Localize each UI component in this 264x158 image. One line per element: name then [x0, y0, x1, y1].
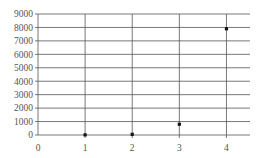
data-point-marker [225, 27, 228, 30]
y-tick-label: 7000 [14, 36, 33, 46]
y-tick-label: 3000 [14, 90, 33, 100]
y-tick-label: 2000 [14, 103, 33, 113]
scatter-chart: 0100020003000400050006000700080009000 01… [0, 0, 264, 158]
data-points [84, 27, 229, 136]
data-point-marker [84, 133, 87, 136]
x-tick-label: 3 [177, 143, 182, 153]
y-tick-label: 1000 [14, 117, 33, 127]
x-tick-label: 0 [36, 143, 41, 153]
x-tick-label: 1 [83, 143, 88, 153]
y-tick-label: 4000 [14, 77, 33, 87]
x-tick-label: 4 [224, 143, 229, 153]
x-tick-label: 2 [130, 143, 135, 153]
data-point-marker [178, 123, 181, 126]
data-point-marker [131, 133, 134, 136]
y-tick-label: 6000 [14, 50, 33, 60]
x-axis-ticks: 01234 [36, 143, 229, 153]
y-tick-label: 5000 [14, 63, 33, 73]
y-tick-label: 8000 [14, 23, 33, 33]
y-axis-ticks: 0100020003000400050006000700080009000 [14, 9, 33, 140]
y-tick-label: 9000 [14, 9, 33, 19]
grid-lines [35, 14, 250, 138]
y-tick-label: 0 [28, 130, 33, 140]
